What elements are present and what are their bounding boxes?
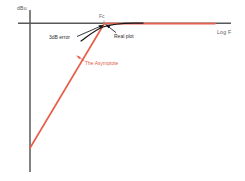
annotation-3db-error: 3dB error	[49, 34, 70, 40]
annotation-asymptote: The Asymptote	[85, 60, 118, 66]
x-axis-label: Log F	[217, 29, 231, 35]
plot-canvas	[0, 0, 245, 181]
corner-frequency-label: Fc	[99, 13, 105, 19]
y-axis-label: dBu	[17, 5, 27, 11]
bode-plot-figure: dBu Log F 3dB error Real plot The Asympt…	[0, 0, 245, 181]
annotation-real-plot: Real plot	[114, 33, 134, 39]
asymptote-rising-segment	[30, 24, 104, 148]
